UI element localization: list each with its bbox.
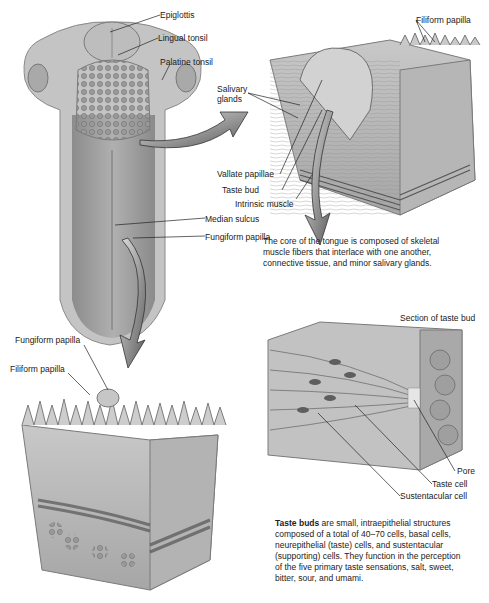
caption-taste-buds-line-4: (supporting) cells. They function in the… [275,551,489,562]
label-salivary-glands-line1: Salivary [217,84,247,94]
label-taste-bud: Taste bud [222,185,259,195]
caption-taste-buds: Taste buds are small, intraepithelial st… [275,518,489,584]
label-taste-cell: Taste cell [432,479,467,489]
label-palatine-tonsil: Palatine tonsil [160,57,213,67]
caption-taste-buds-line-5: of the five primary taste sensations, sa… [275,562,489,573]
caption-taste-buds-line-3: neurepithelial (taste) cells, and susten… [275,540,489,551]
label-lingual-tonsil: Lingual tonsil [158,33,208,43]
taste-bud-section-title: Section of taste bud [400,313,475,323]
caption-taste-buds-line-2: composed of a total of 40–70 cells, basa… [275,529,489,540]
caption-taste-buds-term: Taste buds [275,518,319,528]
label-pore: Pore [457,466,475,476]
taste-bud-section-illustration [268,322,462,470]
caption-tongue-core-line-3: connective tissue, and minor salivary gl… [263,258,488,269]
caption-tongue-core-line-1: The core of the tongue is composed of sk… [263,236,488,247]
tongue-illustration [24,22,201,345]
caption-tongue-core: The core of the tongue is composed of sk… [263,236,488,269]
label-median-sulcus: Median sulcus [205,214,259,224]
vallate-papilla-section-illustration [270,33,480,215]
label-filiform-papilla-section: Filiform papilla [10,364,65,374]
caption-taste-buds-line-1: are small, intraepithelial structures [319,518,450,528]
label-vallate-papillae: Vallate papillae [217,169,274,179]
caption-taste-buds-line-6: bitter, sour, and umami. [275,573,489,584]
label-fungiform-papilla-overview: Fungiform papilla [205,232,270,242]
label-fungiform-papilla-section: Fungiform papilla [15,335,80,345]
label-epiglottis: Epiglottis [160,10,195,20]
label-sustentacular-cell: Sustentacular cell [400,491,467,501]
fungiform-papilla-section-illustration [22,389,226,590]
label-filiform-papilla-vallate: Filiform papilla [416,15,471,25]
label-intrinsic-muscle: Intrinsic muscle [235,199,294,209]
label-salivary-glands-line2: glands [217,94,242,104]
caption-tongue-core-line-2: muscle fibers that interlace with one an… [263,247,488,258]
